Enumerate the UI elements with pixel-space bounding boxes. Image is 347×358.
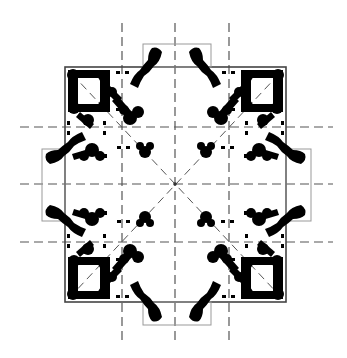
center-point bbox=[173, 182, 177, 186]
walls-quadrant-sw bbox=[46, 205, 163, 322]
floor-plan bbox=[0, 0, 347, 358]
walls-quadrant-nw bbox=[46, 48, 163, 165]
walls-quadrant-ne bbox=[189, 48, 306, 165]
walls-quadrant-se bbox=[189, 205, 306, 322]
